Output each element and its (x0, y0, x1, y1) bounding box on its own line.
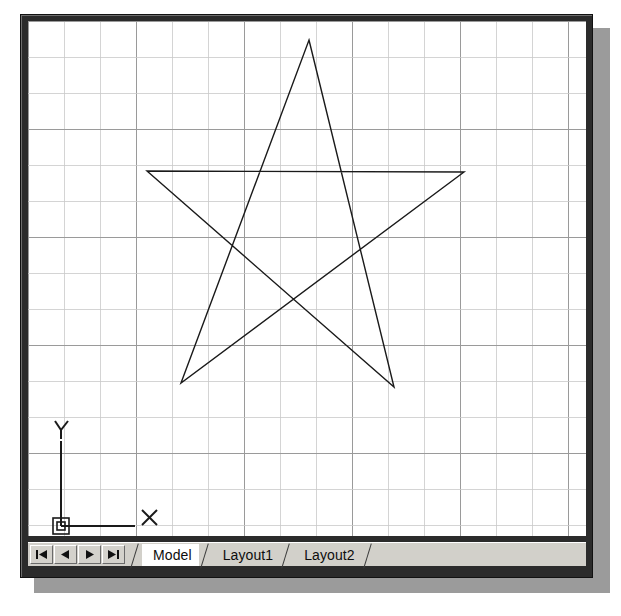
previous-arrow-icon (60, 549, 71, 560)
ucs-icon (28, 21, 586, 536)
cad-drawing-window: Model Layout1 Layout2 (20, 14, 593, 578)
layout-tab-strip: Model Layout1 Layout2 (28, 542, 586, 566)
ucs-y-label (55, 421, 68, 439)
screenshot-stage: Model Layout1 Layout2 (0, 0, 621, 616)
first-arrow-icon (35, 549, 48, 560)
last-arrow-icon (107, 549, 120, 560)
drawing-canvas[interactable] (28, 21, 586, 536)
tab-layout1-label: Layout1 (223, 547, 274, 563)
tab-separator (199, 544, 212, 566)
tab-layout2-label: Layout2 (304, 547, 355, 563)
previous-sheet-button[interactable] (54, 545, 77, 564)
tab-separator (280, 544, 293, 566)
layout-tabs: Model Layout1 Layout2 (129, 543, 375, 566)
sheet-navigation-buttons (28, 543, 126, 566)
next-sheet-button[interactable] (78, 545, 101, 564)
ucs-x-label (142, 510, 157, 525)
last-sheet-button[interactable] (102, 545, 125, 564)
tab-model-label: Model (153, 547, 192, 563)
first-sheet-button[interactable] (30, 545, 53, 564)
tab-layout2[interactable]: Layout2 (293, 544, 362, 566)
tab-model[interactable]: Model (142, 544, 199, 566)
tab-layout1[interactable]: Layout1 (212, 544, 281, 566)
tab-separator (129, 544, 142, 566)
next-arrow-icon (84, 549, 95, 560)
tab-separator (362, 544, 375, 566)
